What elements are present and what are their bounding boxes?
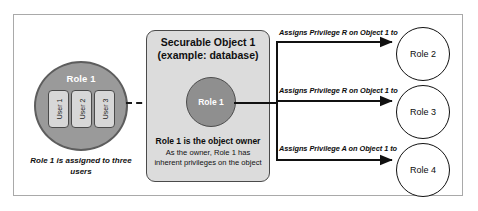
right-role-label-4: Role 4 bbox=[396, 165, 450, 175]
arrow-label-role-4: Assigns Privilege A on Object 1 to bbox=[279, 144, 397, 153]
right-role-label-3: Role 3 bbox=[396, 107, 450, 117]
right-role-label-2: Role 2 bbox=[396, 49, 450, 59]
arrow-label-role-2: Assigns Privilege R on Object 1 to bbox=[279, 28, 398, 37]
arrow-label-role-3: Assigns Privilege R on Object 1 to bbox=[279, 86, 398, 95]
diagram-canvas: Role 1 User 1 User 2 User 3 Role 1 is as… bbox=[0, 0, 478, 211]
